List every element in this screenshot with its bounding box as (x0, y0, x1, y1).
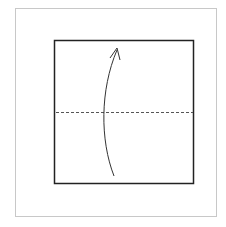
origami-diagram (0, 0, 226, 227)
